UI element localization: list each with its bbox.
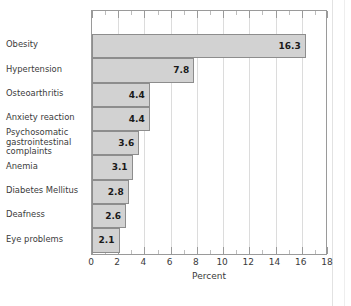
bar-row: 4.4 <box>92 83 326 107</box>
bar-value-label: 4.4 <box>92 83 150 107</box>
x-tick-minor-top <box>315 11 316 15</box>
x-tick-minor-top <box>184 11 185 15</box>
x-axis-title: Percent <box>91 271 327 281</box>
bar-value-label: 2.6 <box>92 204 126 228</box>
category-label: Hypertension <box>6 65 82 75</box>
x-tick-label: 10 <box>216 257 227 267</box>
bar-row: 2.6 <box>92 204 326 228</box>
x-tick-major-top <box>327 11 328 18</box>
bar-value-label: 4.4 <box>92 107 150 131</box>
x-tick-label: 4 <box>141 257 147 267</box>
x-tick-minor-top <box>210 11 211 15</box>
x-tick-label: 12 <box>243 257 254 267</box>
category-label: Anxiety reaction <box>6 113 82 123</box>
x-tick-minor-top <box>262 11 263 15</box>
bar-row: 16.3 <box>92 34 326 58</box>
bar-value-label: 16.3 <box>92 34 306 58</box>
category-label: Diabetes Mellitus <box>6 186 82 196</box>
x-tick-label: 6 <box>167 257 173 267</box>
x-tick-label: 18 <box>321 257 332 267</box>
bar-chart-figure: ObesityHypertensionOsteoarthritisAnxiety… <box>0 0 351 306</box>
category-label: Osteoarthritis <box>6 89 82 99</box>
bar-row: 4.4 <box>92 107 326 131</box>
page-rule-inner <box>344 0 345 306</box>
x-tick-label: 2 <box>114 257 120 267</box>
x-tick-minor-top <box>289 11 290 15</box>
bar-value-label: 3.6 <box>92 131 139 155</box>
x-tick-label: 14 <box>269 257 280 267</box>
category-label: Anemia <box>6 162 82 172</box>
category-label: Obesity <box>6 40 82 50</box>
bar-row: 3.6 <box>92 131 326 155</box>
category-axis-labels: ObesityHypertensionOsteoarthritisAnxiety… <box>0 10 88 255</box>
x-tick-major-top <box>92 11 93 18</box>
x-tick-minor-top <box>131 11 132 15</box>
x-tick-major-top <box>197 11 198 18</box>
bar-row: 3.1 <box>92 155 326 179</box>
bar-value-label: 2.8 <box>92 180 129 204</box>
x-tick-major-top <box>171 11 172 18</box>
category-label: Eye problems <box>6 235 82 245</box>
x-tick-major-top <box>144 11 145 18</box>
x-tick-label: 16 <box>295 257 306 267</box>
x-tick-major-top <box>276 11 277 18</box>
x-tick-major-top <box>118 11 119 18</box>
category-label: Psychosomatic gastrointestinal complaint… <box>6 128 82 157</box>
x-tick-minor-top <box>105 11 106 15</box>
bar-value-label: 3.1 <box>92 155 133 179</box>
bar-row: 2.8 <box>92 180 326 204</box>
x-tick-label: 8 <box>193 257 199 267</box>
x-axis-tick-labels: 024681012141618 <box>91 257 327 271</box>
plot-area: 16.37.84.44.43.63.12.82.62.1 <box>91 10 327 255</box>
x-tick-major-top <box>249 11 250 18</box>
x-tick-label: 0 <box>88 257 94 267</box>
category-label: Deafness <box>6 210 82 220</box>
bar-value-label: 7.8 <box>92 58 194 82</box>
x-tick-major-bottom <box>327 247 328 254</box>
bar-row: 7.8 <box>92 58 326 82</box>
bar-value-label: 2.1 <box>92 228 120 252</box>
x-tick-minor-top <box>236 11 237 15</box>
bar-series: 16.37.84.44.43.63.12.82.62.1 <box>92 34 326 253</box>
x-tick-major-top <box>223 11 224 18</box>
bar-row: 2.1 <box>92 228 326 252</box>
x-tick-major-top <box>302 11 303 18</box>
x-tick-minor-top <box>158 11 159 15</box>
